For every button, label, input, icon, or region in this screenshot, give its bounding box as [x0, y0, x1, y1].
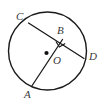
- label-B: B: [57, 25, 64, 36]
- center-point-dot-O: [44, 51, 48, 55]
- main-circle: [9, 12, 87, 90]
- label-C: C: [16, 11, 23, 22]
- geometry-figure: C B D O A: [0, 0, 105, 105]
- label-D: D: [89, 51, 97, 62]
- label-A: A: [24, 89, 31, 100]
- label-O: O: [53, 55, 61, 66]
